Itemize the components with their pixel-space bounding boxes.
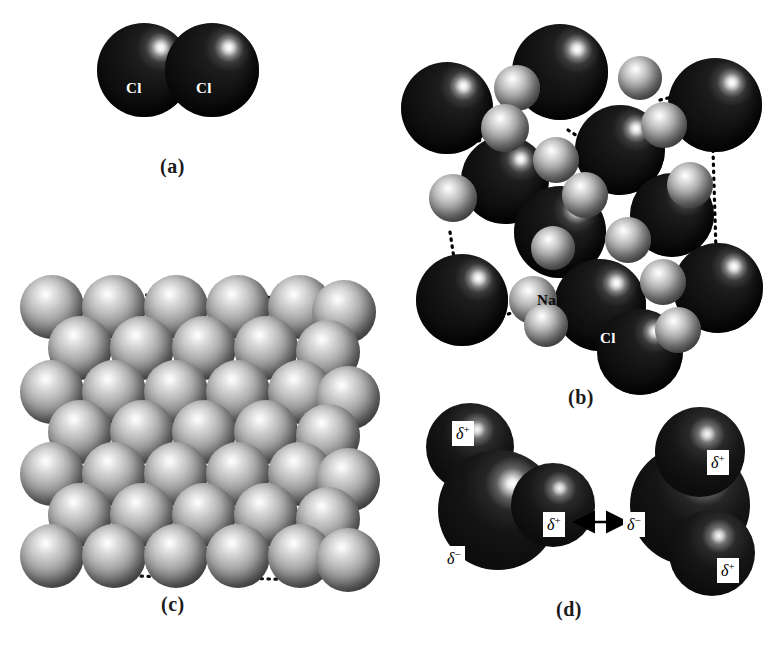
panel-b-ion-cl xyxy=(416,254,508,346)
panel-c-atom xyxy=(206,524,270,588)
panel-d-hydrogen-bond: δ+ δ+ δ− δ+ δ− δ+ xyxy=(410,400,781,630)
panel-b-ion-na xyxy=(641,102,687,148)
panel-b-ion-na xyxy=(562,172,608,218)
panel-c-atom xyxy=(144,524,208,588)
caption-d: (d) xyxy=(556,598,582,621)
panel-b-ion-na xyxy=(531,226,575,270)
panel-b-ion-cl xyxy=(401,62,493,154)
panel-d-charge-right-o: δ− xyxy=(623,512,645,537)
panel-d-charge-left-o: δ− xyxy=(443,546,465,571)
panel-b-ionic: Na Cl xyxy=(400,20,781,390)
panel-b-ion-na xyxy=(524,303,568,347)
panel-c-atom xyxy=(82,524,146,588)
panel-b-ion-na xyxy=(618,56,662,100)
panel-c-atom xyxy=(316,528,380,592)
panel-b-ion-na xyxy=(429,174,477,222)
panel-c-atom xyxy=(20,524,84,588)
panel-d-hydrogen-lobe xyxy=(655,407,745,497)
panel-d-charge-right-h2: δ+ xyxy=(717,558,739,583)
panel-d-charge-left-h1: δ+ xyxy=(452,421,474,446)
panel-b-ion-na xyxy=(667,162,713,208)
panel-b-ion-na xyxy=(481,104,529,152)
panel-d-hydrogen-lobe xyxy=(669,510,755,596)
caption-c: (c) xyxy=(161,593,185,616)
panel-a-atom-cl-right xyxy=(165,23,259,117)
caption-a: (a) xyxy=(160,155,185,178)
panel-b-ion-na xyxy=(640,259,686,305)
bonding-figure: Cl Cl (a) xyxy=(0,0,781,650)
panel-b-ion-na xyxy=(655,307,701,353)
panel-c-metallic xyxy=(20,270,380,590)
panel-d-charge-left-h2: δ+ xyxy=(543,512,565,537)
panel-d-charge-right-h1: δ+ xyxy=(707,450,729,475)
panel-b-ion-na xyxy=(605,217,651,263)
